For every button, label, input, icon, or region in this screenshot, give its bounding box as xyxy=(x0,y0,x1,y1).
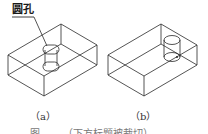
callout-leader-line xyxy=(34,17,47,46)
panel-b-caption: （b） xyxy=(130,111,156,123)
block-a-edge-bottom-left xyxy=(8,75,44,96)
figure: 圆孔 （a） （b） 图 ……（下方标题被裁切） xyxy=(0,0,208,134)
panel-a-caption: （a） xyxy=(30,111,56,123)
panel-a-block xyxy=(8,17,97,96)
block-b-top-face xyxy=(108,24,197,76)
block-b-edge-bottom-left xyxy=(108,75,144,96)
hole-b-intersection-dot xyxy=(176,56,178,58)
block-a-hidden-back-right xyxy=(61,44,97,65)
hole-b-top-ellipse xyxy=(164,36,180,45)
block-b-edge-bottom-right xyxy=(144,65,197,96)
round-hole-a xyxy=(43,45,59,71)
callout-round-hole-label: 圆孔 xyxy=(12,4,34,16)
panel-b-block xyxy=(108,24,197,96)
round-hole-b xyxy=(164,36,180,62)
figure-caption-cropped: 图 ……（下方标题被裁切） xyxy=(30,128,153,134)
block-a-edge-bottom-right xyxy=(44,65,97,96)
block-a-top-face xyxy=(8,24,97,76)
